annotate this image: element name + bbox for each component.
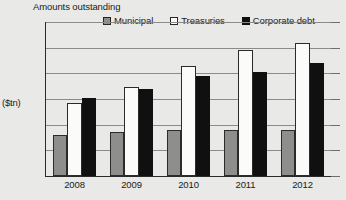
right-axis-tick	[331, 73, 340, 74]
bar-municipal-2009[interactable]	[110, 132, 125, 176]
bar-corporate-2011[interactable]	[253, 72, 268, 176]
bar-municipal-2012[interactable]	[281, 130, 296, 176]
bar-treasuries-2009[interactable]	[124, 87, 139, 176]
bar-group	[217, 22, 274, 176]
right-axis-tick	[331, 125, 340, 126]
right-axis-tick	[331, 176, 340, 177]
right-axis-tick	[331, 99, 340, 100]
bar-corporate-2012[interactable]	[310, 63, 325, 176]
x-axis-tick-label: 2011	[217, 179, 274, 190]
bar-corporate-2008[interactable]	[82, 98, 97, 176]
x-axis-tick-label: 2009	[103, 179, 160, 190]
bar-treasuries-2011[interactable]	[238, 50, 253, 176]
y-axis-title: ($tn)	[2, 97, 21, 108]
bar-group	[160, 22, 217, 176]
bar-corporate-2009[interactable]	[139, 89, 154, 176]
bar-group	[103, 22, 160, 176]
bar-group	[46, 22, 103, 176]
bar-treasuries-2012[interactable]	[295, 43, 310, 176]
bar-chart: Amounts outstanding Municipal Treasuries…	[0, 0, 346, 200]
x-axis-tick-label: 2012	[274, 179, 331, 190]
bar-treasuries-2008[interactable]	[67, 103, 82, 176]
chart-title: Amounts outstanding	[33, 1, 120, 12]
bar-municipal-2011[interactable]	[224, 130, 239, 176]
x-axis-line	[46, 176, 331, 177]
bar-treasuries-2010[interactable]	[181, 66, 196, 176]
bar-municipal-2008[interactable]	[53, 135, 68, 176]
bar-corporate-2010[interactable]	[196, 76, 211, 176]
right-axis-tick	[331, 48, 340, 49]
x-axis-tick-labels: 20082009201020112012	[46, 179, 331, 193]
x-axis-tick-label: 2010	[160, 179, 217, 190]
right-axis-tick	[331, 22, 340, 23]
bar-group	[274, 22, 331, 176]
bar-municipal-2010[interactable]	[167, 130, 182, 176]
plot-area: 024681012	[46, 22, 331, 176]
x-axis-tick-label: 2008	[46, 179, 103, 190]
right-axis-tick	[331, 150, 340, 151]
